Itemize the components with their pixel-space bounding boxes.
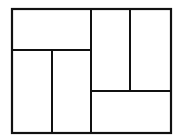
region-bottom-right-wide — [91, 91, 171, 133]
region-top-right-b — [130, 9, 171, 91]
region-top-right-a — [91, 9, 130, 91]
partition-diagram — [0, 0, 181, 137]
region-top-left-wide — [12, 9, 91, 50]
region-bottom-left-a — [12, 50, 52, 133]
region-bottom-left-b — [52, 50, 91, 133]
